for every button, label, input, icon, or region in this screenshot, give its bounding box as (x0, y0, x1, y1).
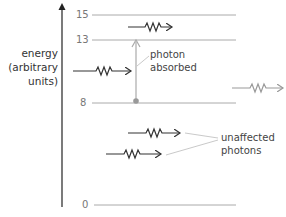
unaffected-photons-label: unaffected photons (221, 131, 275, 157)
axis-title-line-2: (arbitrary (0, 60, 58, 74)
unaffected-photon-1-icon (128, 129, 180, 137)
electron-dot (133, 98, 139, 104)
photon-absorbed-line-2: absorbed (150, 61, 197, 74)
unaffected-photons-line-1: unaffected (221, 131, 275, 144)
top-photon-icon (128, 23, 172, 31)
level-8-label: 8 (80, 97, 86, 109)
photon-absorbed-line-1: photon (150, 48, 197, 61)
unaffected-photons-line-2: photons (221, 144, 275, 157)
energy-level-diagram (0, 0, 286, 217)
incoming-photon-icon (73, 67, 131, 75)
unaffected-leader-line-1 (185, 133, 218, 138)
level-13-label: 13 (76, 34, 89, 46)
absorbed-leader-line (137, 56, 149, 66)
axis-title-line-1: energy (0, 46, 58, 60)
emitted-photon-icon (232, 84, 283, 92)
level-0-label: 0 (82, 199, 88, 211)
level-15-label: 15 (76, 9, 89, 21)
axis-title-line-3: units) (0, 74, 58, 88)
photon-absorbed-label: photon absorbed (150, 48, 197, 74)
unaffected-photon-2-icon (106, 150, 161, 158)
unaffected-leader-line-2 (166, 140, 218, 155)
axis-title: energy (arbitrary units) (0, 46, 58, 88)
